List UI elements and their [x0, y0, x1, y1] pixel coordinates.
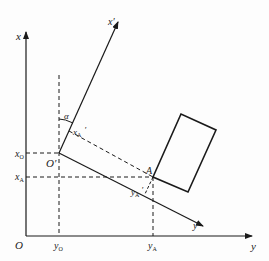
dashed-proj-y-prime	[145, 177, 153, 194]
y-o-label: yO	[53, 240, 63, 252]
rectangle-object	[153, 114, 216, 192]
x-prime-axis	[59, 22, 118, 153]
y-a-prime-label: yA′	[130, 185, 144, 198]
origin-label: O	[15, 239, 23, 251]
x-prime-axis-label: x′	[107, 16, 115, 27]
point-a-label: A	[145, 165, 153, 176]
x-a-prime-label: xA′	[72, 125, 87, 138]
y-prime-axis-label: y′	[192, 220, 200, 231]
x-axis-label: x	[15, 30, 21, 42]
x-o-label: xO	[14, 148, 24, 160]
coordinate-diagram: x y O x′ y′ O′ α A xO xA yO yA xA′ yA′	[0, 0, 269, 261]
y-a-label: yA	[147, 240, 157, 252]
dashed-proj-x-prime	[69, 131, 153, 177]
alpha-label: α	[64, 111, 69, 121]
y-axis-label: y	[250, 240, 256, 252]
origin-prime-label: O′	[46, 157, 57, 169]
diagram-svg: x y O x′ y′ O′ α A xO xA yO yA xA′ yA′	[0, 0, 269, 261]
x-a-label: xA	[14, 171, 24, 183]
